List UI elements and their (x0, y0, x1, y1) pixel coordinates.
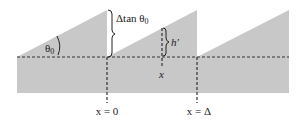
period-label: x = Δ (187, 105, 211, 117)
step-height-label: Δtan θ0 (116, 12, 149, 26)
step-height-brace (108, 10, 115, 57)
local-height-label: h′ (171, 36, 180, 48)
origin-label: x = 0 (96, 105, 119, 117)
sawtooth-profile (17, 10, 289, 93)
sawtooth-diagram: θ0 Δtan θ0 h′ x x = 0 x = Δ (0, 0, 301, 123)
position-label: x (158, 68, 164, 80)
